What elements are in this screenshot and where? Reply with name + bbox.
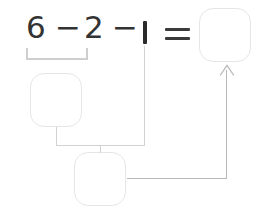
equation-minus-operator-2: − <box>112 12 138 43</box>
connector-third-operand-vertical <box>144 46 145 146</box>
grouping-bracket-bar <box>26 58 88 60</box>
equals-sign-upper-bar <box>165 28 190 31</box>
grouping-bracket-right-tick <box>86 48 88 60</box>
partial-result-box[interactable] <box>30 73 82 127</box>
connector-partial-result-vertical <box>56 127 57 146</box>
worksheet-canvas: 6 − 2 − 1 = <box>0 0 264 211</box>
second-step-box[interactable] <box>74 152 126 206</box>
equals-sign-lower-bar <box>165 37 190 40</box>
connector-into-second-step <box>100 145 101 153</box>
equation-minus-operator-1: − <box>55 12 81 43</box>
connector-second-step-horizontal <box>127 178 227 179</box>
equation-third-operand-stroke <box>143 21 147 44</box>
arrow-up-icon <box>218 63 236 76</box>
final-answer-box[interactable] <box>199 8 251 62</box>
connector-final-answer-vertical <box>226 70 227 179</box>
equation-first-operand: 6 <box>26 12 46 43</box>
equation-second-operand: 2 <box>84 12 104 43</box>
